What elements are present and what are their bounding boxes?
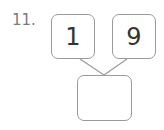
top-left-value: 1 bbox=[65, 23, 80, 51]
top-right-value: 9 bbox=[126, 23, 141, 51]
top-left-box: 1 bbox=[51, 14, 95, 59]
answer-box[interactable] bbox=[77, 75, 132, 121]
problem-number: 11. bbox=[12, 11, 36, 29]
top-right-box: 9 bbox=[112, 14, 156, 59]
